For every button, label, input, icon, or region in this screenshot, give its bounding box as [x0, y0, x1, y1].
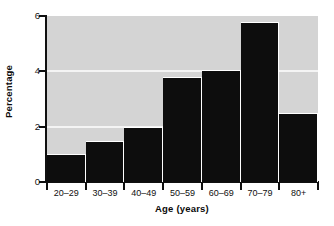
x-tick-label: 80+	[279, 187, 318, 199]
y-tick-label: 4	[24, 66, 40, 76]
x-tick-label: 50–59	[163, 187, 202, 199]
x-tick-mark	[201, 183, 203, 190]
y-axis-title-label: Percentage	[4, 64, 15, 117]
x-tick-label: 70–79	[241, 187, 280, 199]
bar-chart-figure: Percentage 0246 20–2930–3940–4950–5960–6…	[0, 0, 334, 226]
bar	[124, 127, 163, 182]
x-tick-label: 40–49	[124, 187, 163, 199]
y-tick-label: 2	[24, 122, 40, 132]
bar	[86, 141, 125, 183]
y-tick-mark	[39, 181, 46, 183]
bar	[279, 113, 318, 182]
x-tick-mark	[240, 183, 242, 190]
y-tick-label: 0	[24, 177, 40, 187]
x-tick-mark	[46, 183, 48, 190]
x-tick-mark	[85, 183, 87, 190]
x-axis-title: Age (years)	[45, 203, 319, 214]
y-tick-label: 6	[24, 11, 40, 21]
x-tick-mark	[317, 183, 319, 190]
y-tick-mark	[39, 126, 46, 128]
y-tick-mark	[39, 70, 46, 72]
plot-area	[47, 16, 318, 182]
x-tick-label: 60–69	[202, 187, 241, 199]
x-tick-label: 30–39	[86, 187, 125, 199]
x-tick-label: 20–29	[47, 187, 86, 199]
bar	[241, 22, 280, 182]
y-axis-title: Percentage	[0, 0, 18, 182]
bar	[47, 154, 86, 182]
x-tick-mark	[278, 183, 280, 190]
bar	[202, 70, 241, 182]
y-tick-mark	[39, 15, 46, 17]
x-tick-mark	[162, 183, 164, 190]
bar	[163, 77, 202, 182]
y-axis-tick-labels: 0246	[18, 0, 40, 190]
x-tick-mark	[123, 183, 125, 190]
